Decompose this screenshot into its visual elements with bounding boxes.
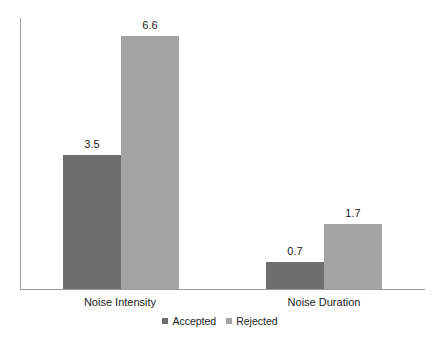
y-axis: [20, 18, 21, 290]
legend-label-rejected: Rejected: [236, 315, 277, 327]
data-label-noise-intensity-accepted: 3.5: [63, 138, 121, 150]
legend: Accepted Rejected: [0, 315, 440, 327]
legend-item-accepted: Accepted: [162, 315, 216, 327]
category-label-noise-intensity: Noise Intensity: [20, 296, 220, 308]
bar-noise-intensity-accepted: [63, 155, 121, 289]
bar-noise-duration-accepted: [266, 262, 324, 289]
bar-chart: Noise Intensity Noise Duration Accepted …: [0, 0, 440, 344]
legend-item-rejected: Rejected: [226, 315, 277, 327]
x-axis: [20, 289, 425, 290]
bar-noise-intensity-rejected: [121, 36, 179, 289]
data-label-noise-intensity-rejected: 6.6: [121, 19, 179, 31]
legend-swatch-rejected-icon: [226, 318, 232, 324]
data-label-noise-duration-accepted: 0.7: [266, 245, 324, 257]
legend-swatch-accepted-icon: [162, 318, 168, 324]
bar-noise-duration-rejected: [324, 224, 382, 289]
category-label-noise-duration: Noise Duration: [224, 296, 424, 308]
data-label-noise-duration-rejected: 1.7: [324, 207, 382, 219]
legend-label-accepted: Accepted: [172, 315, 216, 327]
